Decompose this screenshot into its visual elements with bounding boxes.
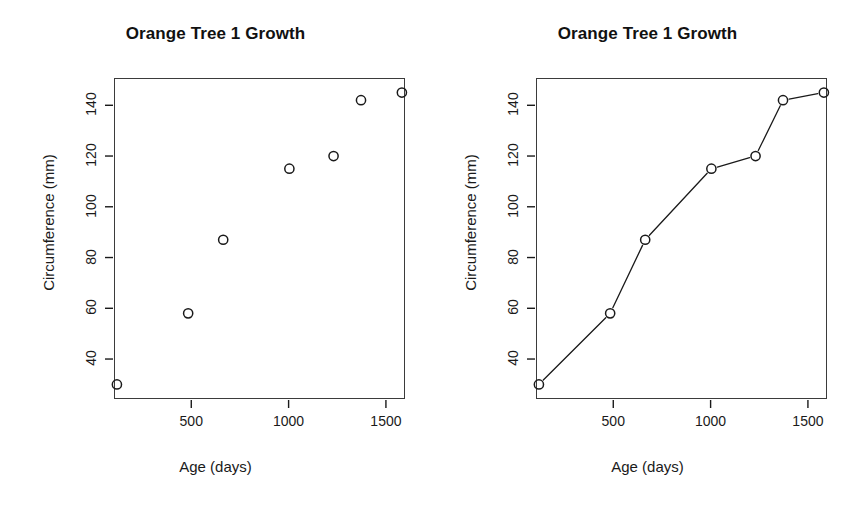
x-axis-tick-label: 500 (161, 413, 221, 429)
x-axis-tick-label: 1500 (356, 413, 416, 429)
x-axis-title: Age (days) (432, 458, 863, 475)
page-title: Orange Tree 1 Growth (0, 24, 431, 44)
plot-frame (114, 78, 405, 399)
x-axis-title: Age (days) (0, 458, 431, 475)
y-axis-tick-label: 60 (505, 284, 521, 330)
y-axis-title: Circumference (mm) (40, 103, 57, 343)
y-axis-tick-label: 40 (83, 335, 99, 381)
plot-panel-line: Orange Tree 1 Growth Circumference (mm) … (432, 0, 863, 518)
x-axis-tick-label: 500 (583, 413, 643, 429)
y-axis-tick-label: 140 (83, 81, 99, 127)
y-axis-tick-label: 140 (505, 81, 521, 127)
y-axis-tick-label: 40 (505, 335, 521, 381)
y-axis-tick-label: 60 (83, 284, 99, 330)
y-axis-tick-label: 120 (505, 132, 521, 178)
plot-panel-scatter: Orange Tree 1 Growth Circumference (mm) … (0, 0, 431, 518)
page-title: Orange Tree 1 Growth (432, 24, 863, 44)
y-axis-tick-label: 120 (83, 132, 99, 178)
y-axis-title: Circumference (mm) (462, 103, 479, 343)
x-axis-tick-label: 1000 (259, 413, 319, 429)
y-axis-tick-label: 80 (505, 234, 521, 280)
y-axis-tick-label: 80 (83, 234, 99, 280)
x-axis-tick-label: 1000 (681, 413, 741, 429)
plot-frame (536, 78, 827, 399)
y-axis-tick-label: 100 (83, 183, 99, 229)
y-axis-tick-label: 100 (505, 183, 521, 229)
x-axis-tick-label: 1500 (778, 413, 838, 429)
